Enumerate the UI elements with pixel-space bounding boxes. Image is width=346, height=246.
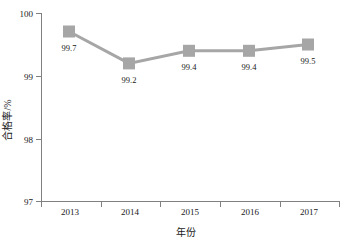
- x-tick-label-2016: 2016: [241, 207, 260, 217]
- y-tick-label-100: 100: [20, 9, 34, 19]
- x-tick-label-2014: 2014: [121, 207, 140, 217]
- data-label-2013: 99.7: [62, 43, 77, 53]
- y-tick-label-98: 98: [24, 135, 34, 145]
- data-point-marker-2017[interactable]: [302, 39, 314, 51]
- x-tick-label-2013: 2013: [61, 207, 80, 217]
- x-tick-label-2015: 2015: [181, 207, 200, 217]
- data-point-marker-2016[interactable]: [243, 45, 255, 57]
- x-tick-label-2017: 2017: [300, 207, 319, 217]
- data-point-marker-2015[interactable]: [183, 45, 195, 57]
- data-point-marker-2014[interactable]: [123, 57, 135, 69]
- data-label-2017: 99.5: [301, 56, 316, 66]
- y-tick-label-97: 97: [24, 197, 34, 207]
- data-label-2014: 99.2: [122, 75, 137, 85]
- data-label-2016: 99.4: [242, 62, 258, 72]
- data-label-2015: 99.4: [182, 62, 198, 72]
- y-axis-title: 合格率/%: [1, 99, 13, 140]
- y-tick-label-99: 99: [24, 72, 34, 82]
- x-axis-title: 年份: [176, 226, 196, 238]
- data-point-marker-2013[interactable]: [63, 26, 75, 38]
- line-chart: 100 99 98 97 2013 2014 2015 2016 2017 99…: [0, 0, 346, 246]
- chart-canvas: 100 99 98 97 2013 2014 2015 2016 2017 99…: [0, 0, 346, 246]
